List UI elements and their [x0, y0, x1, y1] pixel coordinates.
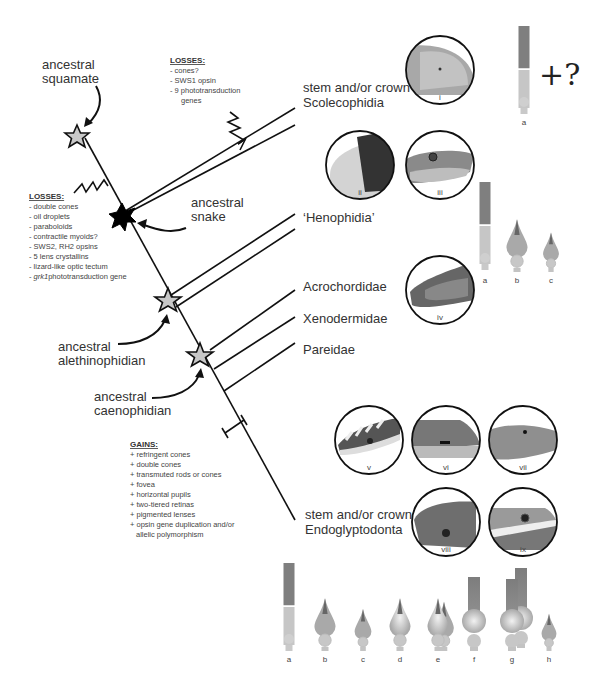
star-ancestral-squamate-icon	[65, 125, 89, 147]
label-ancestral-snake-2: snake	[191, 209, 226, 224]
transmuted-ellipsoid	[462, 609, 486, 633]
taxon-henophidia: ‘Henophidia’	[303, 210, 375, 225]
rod-nucleus	[480, 253, 490, 263]
henophidia-branch-1	[168, 214, 295, 297]
trunk-line	[85, 138, 295, 520]
photoreceptors-endoglyptodonta: abcdefgh	[284, 563, 557, 664]
cone-nucleus	[394, 634, 406, 646]
label-ancestral-alethinophidian-2: alethinophidian	[58, 353, 145, 368]
cone-foot	[547, 647, 552, 651]
transmuted-nucleus	[467, 634, 481, 648]
photo-label-vii: vii	[519, 463, 527, 472]
cone-foot	[321, 647, 328, 651]
receptor-label-f: f	[473, 655, 476, 664]
losses-snake-item: - SWS2, RH2 opsins	[29, 242, 98, 251]
cone-foot	[434, 647, 441, 651]
rod-foot	[482, 264, 489, 270]
gains-item: + two-tiered retinas	[130, 500, 194, 509]
taxon-xenodermidae: Xenodermidae	[303, 311, 388, 326]
phylogeny-figure: ancestral squamate ancestral snake ances…	[0, 0, 596, 685]
transmuted-ellipsoid	[500, 609, 524, 633]
label-ancestral-alethinophidian-1: ancestral	[58, 339, 111, 354]
rod-outer-segment	[284, 563, 295, 605]
gene-name-italic: grk1	[34, 272, 49, 281]
photo-vi: vi	[412, 406, 480, 474]
taxon-endoglyptodonta-line1: stem and/or crown	[305, 507, 412, 522]
photo-label-v: v	[367, 463, 371, 472]
cone-nucleus	[319, 634, 331, 646]
cone-foot	[513, 268, 520, 272]
cone-nucleus	[545, 638, 554, 647]
photo-label-ix: ix	[520, 545, 526, 554]
receptor-label-a: a	[522, 118, 527, 127]
acrochordidae-branch	[210, 290, 295, 350]
gains-bar	[225, 420, 244, 433]
zigzag-scolecophidia-icon	[228, 112, 244, 144]
taxon-scolecophidia-line1: stem and/or crown	[303, 80, 410, 95]
taxon-acrochordidae: Acrochordidae	[303, 279, 387, 294]
receptor-label-e: e	[436, 655, 441, 664]
arrow-squamate	[88, 86, 100, 124]
plus-question-mark: +?	[539, 57, 580, 92]
losses-snake: LOSSES: - double cones - oil droplets - …	[29, 192, 127, 281]
photo-label-iii: iii	[437, 188, 443, 197]
branch-henophidia	[168, 214, 295, 307]
cone-foot	[548, 268, 553, 272]
gains-item: allelic polymorphism	[136, 530, 204, 539]
label-ancestral-snake-1: ancestral	[191, 195, 244, 210]
losses-scoleco-item: - 9 phototransduction	[170, 86, 240, 95]
gains-item: + transmuted rods or cones	[130, 470, 222, 479]
cone-foot	[441, 647, 448, 651]
photo-label-iv: iv	[437, 313, 443, 322]
photoreceptors-scolecophidia: a	[519, 26, 530, 127]
taxon-pareidae: Pareidae	[303, 342, 355, 357]
rod-outer-segment	[519, 26, 530, 68]
cone-nucleus	[546, 259, 555, 268]
receptor-label-d: d	[398, 655, 402, 664]
receptor-label-h: h	[547, 655, 551, 664]
photo-label-ii: ii	[358, 188, 362, 197]
photo-ix: ix	[489, 488, 557, 556]
label-ancestral-caenophidian-2: caenophidian	[94, 403, 171, 418]
photoreceptors-henophidia: abc	[480, 182, 559, 285]
losses-scoleco-item: - SWS1 opsin	[170, 76, 216, 85]
losses-snake-item: - double cones	[29, 202, 78, 211]
rod-foot	[521, 108, 528, 114]
photo-vii: vii	[489, 406, 558, 474]
losses-snake-item: - contractile myoids?	[29, 232, 98, 241]
gains-heading: GAINS:	[130, 440, 158, 449]
tree-trunk	[85, 138, 295, 520]
arrow-head-snake-icon	[137, 219, 147, 229]
gains-item: + pigmented lenses	[130, 510, 196, 519]
gains-item: + opsin gene duplication and/or	[130, 520, 235, 529]
photo-i: i	[400, 36, 474, 104]
label-ancestral-caenophidian-1: ancestral	[94, 389, 147, 404]
photo-v: v	[335, 406, 403, 474]
arrow-caenophidian	[152, 375, 199, 398]
receptor-label-b: b	[515, 276, 520, 285]
arrow-head-alethinophidian-icon	[161, 314, 170, 324]
photo-ii: ii	[326, 130, 394, 200]
arrow-head-caenophidian-icon	[195, 368, 204, 378]
rod-outer-segment	[480, 182, 491, 224]
gains-item: + fovea	[130, 480, 156, 489]
gains-item: + horizontal pupils	[130, 490, 191, 499]
transmuted-outer-segment	[468, 577, 480, 611]
gains-item: + refringent cones	[130, 450, 190, 459]
phylogeny-svg: ancestral squamate ancestral snake ances…	[0, 0, 596, 685]
rod-foot	[286, 645, 293, 651]
label-ancestral-squamate-1: ancestral	[42, 57, 95, 72]
photo-label-vi: vi	[443, 463, 449, 472]
receptor-label-a: a	[287, 655, 292, 664]
transmuted-foot	[508, 647, 516, 651]
receptor-label-c: c	[361, 655, 365, 664]
xenodermidae-branch	[214, 317, 295, 369]
cone-foot	[396, 647, 403, 651]
gene-desc: phototransduction gene	[48, 272, 126, 281]
losses-snake-heading: LOSSES:	[29, 192, 64, 201]
photo-viii: viii	[412, 488, 480, 556]
henophidia-branch-2	[176, 229, 295, 307]
losses-snake-item: - oil droplets	[29, 212, 70, 221]
cone-nucleus	[511, 255, 523, 267]
transmuted-foot	[517, 644, 525, 648]
